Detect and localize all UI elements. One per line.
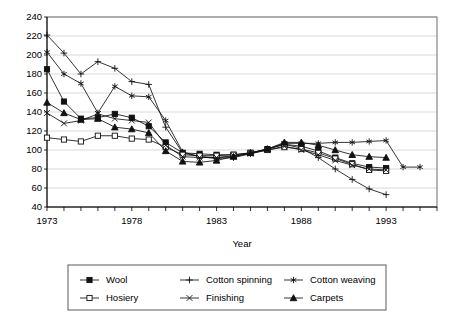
legend-item-wool[interactable]: Wool [80, 274, 127, 285]
marker-filled-triangle [44, 99, 51, 105]
chart-root: 4060801001201401601802002202401973197819… [0, 0, 453, 322]
legend-item-cotton-weaving[interactable]: Cotton weaving [284, 274, 375, 285]
marker-open-square [112, 133, 117, 138]
marker-filled-square [112, 111, 117, 116]
marker-open-square [87, 295, 92, 300]
x-axis: 19731978198319881993 [36, 207, 437, 226]
marker-open-square [384, 168, 389, 173]
marker-filled-square [87, 277, 92, 282]
legend-label: Hosiery [106, 292, 138, 303]
gridlines [47, 17, 437, 188]
marker-filled-triangle [61, 110, 68, 116]
marker-open-square [129, 136, 134, 141]
x-tick-label: 1988 [291, 215, 312, 226]
line-chart: 4060801001201401601802002202401973197819… [0, 0, 453, 322]
y-tick-label: 120 [26, 125, 42, 136]
marker-open-square [44, 135, 49, 140]
marker-filled-square [61, 99, 66, 104]
series-hosiery [44, 133, 388, 173]
legend-label: Cotton spinning [206, 274, 272, 285]
legend-label: Carpets [310, 292, 344, 303]
marker-open-square [95, 133, 100, 138]
y-tick-label: 60 [31, 182, 42, 193]
y-tick-label: 80 [31, 163, 42, 174]
legend-item-carpets[interactable]: Carpets [284, 292, 344, 303]
legend: WoolCotton spinningCotton weavingHosiery… [68, 265, 386, 310]
marker-filled-triangle [112, 124, 119, 130]
x-tick-label: 1973 [36, 215, 57, 226]
y-tick-label: 160 [26, 87, 42, 98]
legend-item-cotton-spinning[interactable]: Cotton spinning [180, 274, 272, 285]
marker-open-square [146, 137, 151, 142]
marker-open-square [367, 167, 372, 172]
x-tick-label: 1978 [121, 215, 142, 226]
y-tick-label: 40 [31, 201, 42, 212]
legend-label: Finishing [206, 292, 244, 303]
marker-filled-square [44, 67, 49, 72]
y-tick-label: 220 [26, 30, 42, 41]
legend-item-finishing[interactable]: Finishing [180, 292, 244, 303]
y-tick-label: 100 [26, 144, 42, 155]
legend-item-hosiery[interactable]: Hosiery [80, 292, 138, 303]
x-tick-label: 1993 [376, 215, 397, 226]
x-axis-title: Year [232, 238, 251, 249]
legend-label: Wool [106, 274, 127, 285]
x-tick-label: 1983 [206, 215, 227, 226]
series-group [44, 32, 423, 198]
y-tick-label: 200 [26, 49, 42, 60]
marker-open-square [78, 139, 83, 144]
marker-open-square [61, 137, 66, 142]
y-tick-label: 240 [26, 11, 42, 22]
y-axis: 406080100120140160180200220240 [26, 11, 47, 212]
legend-label: Cotton weaving [310, 274, 375, 285]
marker-filled-square [129, 115, 134, 120]
y-tick-label: 180 [26, 68, 42, 79]
y-tick-label: 140 [26, 106, 42, 117]
